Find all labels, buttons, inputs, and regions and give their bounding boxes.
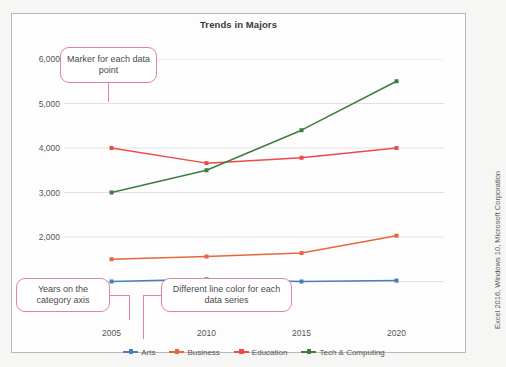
data-point-marker[interactable] — [205, 255, 209, 259]
series-line[interactable] — [112, 81, 397, 192]
legend-swatch-icon — [301, 348, 316, 356]
callout-different-line-color: Different line color for each data serie… — [161, 278, 292, 312]
chart-legend[interactable]: ArtsBusinessEducationTech & Computing — [64, 345, 444, 359]
legend-label: Education — [252, 348, 288, 357]
data-series[interactable] — [110, 79, 399, 194]
data-point-marker[interactable] — [300, 280, 304, 284]
y-axis-tick-label: 3,000 — [20, 188, 60, 198]
data-point-marker[interactable] — [395, 279, 399, 283]
data-point-marker[interactable] — [395, 234, 399, 238]
callout-years-on-category-axis: Years on the category axis — [16, 278, 110, 312]
excel-chart-object[interactable]: Trends in Majors 1,0002,0003,0004,0005,0… — [11, 13, 466, 353]
scanned-page: Trends in Majors 1,0002,0003,0004,0005,0… — [0, 0, 506, 367]
series-line[interactable] — [112, 236, 397, 260]
x-axis-tick-label: 2020 — [387, 328, 406, 338]
data-point-marker[interactable] — [110, 191, 114, 195]
data-point-marker[interactable] — [300, 156, 304, 160]
data-point-marker[interactable] — [395, 146, 399, 150]
legend-item[interactable]: Business — [169, 348, 219, 357]
callout-leader-linecolor-horizontal — [143, 295, 162, 296]
legend-label: Arts — [141, 348, 155, 357]
data-series[interactable] — [110, 146, 399, 165]
callout-leader-years-vertical — [129, 295, 130, 320]
callout-leader-years-horizontal — [110, 295, 130, 296]
x-axis-tick-label: 2010 — [197, 328, 216, 338]
y-axis-tick-label: 5,000 — [20, 99, 60, 109]
y-axis-tick-label: 6,000 — [20, 54, 60, 64]
chart-title: Trends in Majors — [12, 19, 465, 30]
data-point-marker[interactable] — [205, 168, 209, 172]
legend-label: Tech & Computing — [319, 348, 384, 357]
data-point-marker[interactable] — [110, 257, 114, 261]
data-point-marker[interactable] — [300, 128, 304, 132]
data-point-marker[interactable] — [205, 161, 209, 165]
data-point-marker[interactable] — [300, 251, 304, 255]
x-axis: 2005201020152020 — [64, 328, 444, 342]
legend-swatch-icon — [169, 348, 184, 356]
callout-leader-marker — [108, 83, 109, 102]
x-axis-tick-label: 2015 — [292, 328, 311, 338]
data-point-marker[interactable] — [395, 79, 399, 83]
y-axis-tick-label: 4,000 — [20, 143, 60, 153]
data-point-marker[interactable] — [110, 146, 114, 150]
legend-swatch-icon — [123, 348, 138, 356]
y-axis-tick-label: 2,000 — [20, 232, 60, 242]
data-series-layer — [110, 79, 399, 283]
callout-leader-linecolor-vertical — [143, 295, 144, 339]
x-axis-tick-label: 2005 — [102, 328, 121, 338]
legend-item[interactable]: Tech & Computing — [301, 348, 384, 357]
legend-label: Business — [187, 348, 219, 357]
source-credit-text: Excel 2016, Windows 10, Microsoft Corpor… — [493, 171, 502, 329]
legend-swatch-icon — [234, 348, 249, 356]
callout-marker-for-each-data-point: Marker for each data point — [60, 47, 157, 83]
legend-item[interactable]: Arts — [123, 348, 155, 357]
data-series[interactable] — [110, 234, 399, 262]
legend-item[interactable]: Education — [234, 348, 288, 357]
source-credit: Excel 2016, Windows 10, Microsoft Corpor… — [490, 140, 504, 360]
gridlines — [64, 59, 444, 282]
data-point-marker[interactable] — [110, 280, 114, 284]
